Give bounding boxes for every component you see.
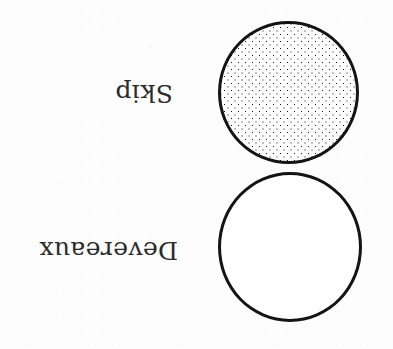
stippled-circle — [218, 21, 359, 164]
circle-label-devereaux: Devereaux — [31, 236, 186, 264]
figure-canvas: Skip Devereaux — [0, 0, 393, 349]
circle-label-skip: Skip — [110, 79, 178, 107]
open-circle — [218, 172, 362, 322]
